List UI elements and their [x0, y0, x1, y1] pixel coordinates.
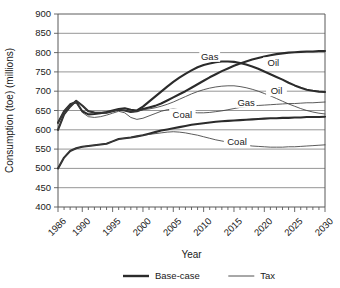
x-tick-label-1995: 1995 [100, 215, 123, 238]
y-axis-title-group: Consumption (toe) (millions) [4, 48, 15, 173]
x-tick-label-group-2000: 2000 [130, 215, 153, 238]
y-tick-label-500: 500 [35, 162, 51, 173]
x-tick-label-1990: 1990 [70, 215, 93, 238]
y-tick-label-550: 550 [35, 143, 51, 154]
annotation-gas-0: Gas [201, 51, 219, 62]
x-tick-label-group-2025: 2025 [282, 215, 305, 238]
x-tick-label-1986: 1986 [45, 215, 68, 238]
y-tick-label-750: 750 [35, 66, 51, 77]
x-tick-label-2025: 2025 [282, 215, 305, 238]
y-tick-label-600: 600 [35, 124, 51, 135]
x-tick-label-group-2005: 2005 [161, 215, 184, 238]
y-axis-title: Consumption (toe) (millions) [4, 48, 15, 173]
annotation-gas-3: Gas [237, 97, 255, 108]
x-tick-label-group-1986: 1986 [45, 215, 68, 238]
series-line-coal-base-case [58, 117, 325, 169]
x-tick-label-2005: 2005 [161, 215, 184, 238]
x-tick-label-2015: 2015 [221, 215, 244, 238]
x-axis-title: Year [181, 249, 202, 260]
x-tick-label-2020: 2020 [252, 215, 275, 238]
x-tick-label-group-2010: 2010 [191, 215, 214, 238]
annotation-coal-5: Coal [227, 136, 247, 147]
consumption-line-chart: 4004505005506006507007508008509001986199… [0, 0, 340, 288]
y-tick-label-900: 900 [35, 8, 51, 19]
x-tick-label-2000: 2000 [130, 215, 153, 238]
x-tick-label-group-1990: 1990 [70, 215, 93, 238]
x-tick-label-group-2015: 2015 [221, 215, 244, 238]
x-tick-label-group-2030: 2030 [312, 215, 335, 238]
x-tick-label-2030: 2030 [312, 215, 335, 238]
annotation-oil-1: Oil [268, 57, 280, 68]
legend-label-tax: Tax [260, 270, 275, 281]
x-tick-label-group-2020: 2020 [252, 215, 275, 238]
chart-figure: 4004505005506006507007508008509001986199… [0, 0, 340, 288]
y-tick-label-700: 700 [35, 85, 51, 96]
annotation-coal-4: Coal [173, 109, 193, 120]
y-tick-label-400: 400 [35, 201, 51, 212]
y-tick-label-650: 650 [35, 105, 51, 116]
x-tick-label-group-1995: 1995 [100, 215, 123, 238]
y-tick-label-850: 850 [35, 27, 51, 38]
series-line-coal-tax [58, 132, 325, 169]
x-tick-label-2010: 2010 [191, 215, 214, 238]
annotation-oil-2: Oil [271, 85, 283, 96]
y-tick-label-450: 450 [35, 182, 51, 193]
y-tick-label-800: 800 [35, 47, 51, 58]
legend-label-base-case: Base-case [155, 270, 200, 281]
